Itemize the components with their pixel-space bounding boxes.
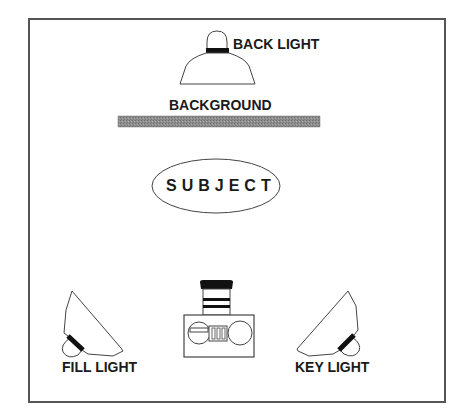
fill-light-icon bbox=[62, 291, 123, 357]
diagram-graphics bbox=[0, 0, 468, 417]
camera-icon bbox=[184, 280, 254, 357]
lighting-diagram: BACK LIGHT BACKGROUND SUBJECT FILL LIGHT… bbox=[0, 0, 468, 417]
key-light-icon bbox=[297, 291, 360, 356]
background-backdrop bbox=[118, 116, 320, 127]
key-light-label: KEY LIGHT bbox=[295, 360, 369, 374]
subject-label: SUBJECT bbox=[166, 178, 276, 194]
background-label: BACKGROUND bbox=[169, 98, 272, 112]
back-light-label: BACK LIGHT bbox=[233, 37, 319, 51]
fill-light-label: FILL LIGHT bbox=[62, 360, 137, 374]
